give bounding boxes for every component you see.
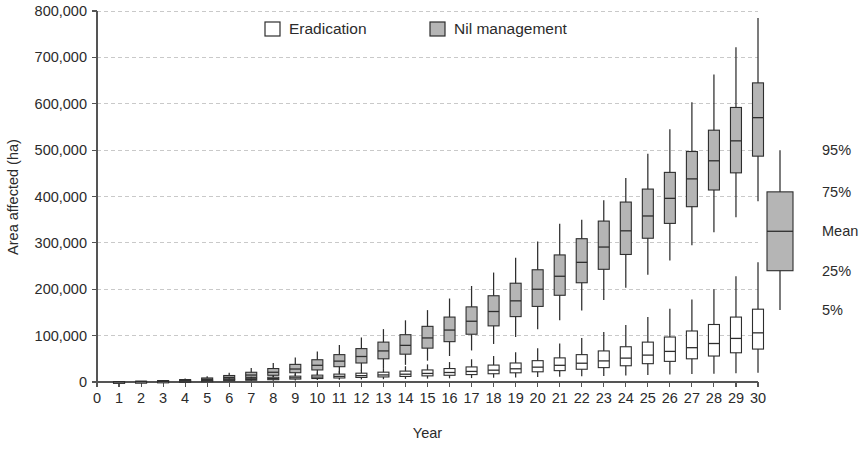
box-rect — [466, 367, 477, 375]
box-plot-item — [290, 374, 301, 381]
box-rect — [510, 363, 521, 373]
box-rect — [620, 347, 631, 366]
x-tick-label: 21 — [552, 390, 568, 406]
box-plot-item — [664, 309, 675, 375]
box-rect — [510, 283, 521, 316]
box-plot-item — [532, 241, 543, 329]
y-axis-title: Area affected (ha) — [5, 139, 21, 255]
y-tick-label: 800,000 — [35, 3, 87, 19]
box-plot-item — [400, 366, 411, 379]
y-tick-label: 400,000 — [35, 189, 87, 205]
y-tick-label: 100,000 — [35, 328, 87, 344]
box-plot-item — [114, 382, 125, 384]
box-plot-item — [642, 317, 653, 375]
legend-group: EradicationNil management — [265, 20, 568, 37]
box-rect — [554, 255, 565, 295]
box-plot-item — [444, 299, 455, 357]
box-plot-item — [180, 380, 191, 382]
xtick-labels-group: 0123456789101112131415161718192021222324… — [93, 390, 766, 406]
legend-label-1: Eradication — [289, 20, 367, 37]
gridlines-group — [97, 11, 758, 336]
box-rect — [488, 365, 499, 374]
box-plot-item — [422, 310, 433, 361]
box-rect — [576, 239, 587, 283]
box-plot-item — [598, 200, 609, 300]
box-rect — [730, 107, 741, 172]
box-rect — [730, 317, 741, 353]
key-label-95pct: 95% — [822, 142, 851, 158]
key-label-5pct: 5% — [822, 302, 843, 318]
x-tick-label: 11 — [332, 390, 347, 406]
box-rect — [686, 331, 697, 359]
box-plot-item — [510, 352, 521, 377]
x-tick-label: 10 — [309, 390, 325, 406]
y-tick-label: 0 — [79, 374, 87, 390]
x-tick-label: 15 — [419, 390, 435, 406]
x-tick-label: 6 — [225, 390, 233, 406]
x-tick-label: 4 — [181, 390, 189, 406]
key-label-mean: Mean — [822, 223, 858, 239]
box-plot-item — [510, 258, 521, 337]
box-plot-item — [532, 348, 543, 377]
x-tick-label: 7 — [247, 390, 255, 406]
box-plot-item — [158, 381, 169, 383]
x-tick-label: 5 — [203, 390, 211, 406]
box-rect — [532, 361, 543, 372]
box-plot-item — [686, 102, 697, 245]
box-plot-item — [753, 18, 764, 201]
box-plot-item — [642, 154, 653, 275]
x-tick-label: 20 — [530, 390, 546, 406]
box-plot-item — [488, 356, 499, 378]
chart-svg: 800,000700,000600,000500,000400,000300,0… — [0, 0, 864, 451]
box-plot-item — [356, 337, 367, 370]
box-plot-item — [576, 220, 587, 311]
y-tick-label: 200,000 — [35, 281, 87, 297]
box-plot-chart: 800,000700,000600,000500,000400,000300,0… — [0, 0, 864, 451]
box-plot-item — [620, 178, 631, 288]
x-tick-label: 3 — [159, 390, 167, 406]
x-tick-label: 9 — [291, 390, 299, 406]
x-tick-label: 16 — [441, 390, 457, 406]
box-plot-item — [708, 75, 719, 233]
ytick-labels-group: 800,000700,000600,000500,000400,000300,0… — [35, 3, 87, 390]
box-plot-item — [686, 299, 697, 374]
x-tick-label: 29 — [728, 390, 744, 406]
key-label-25pct: 25% — [822, 263, 851, 279]
x-tick-label: 8 — [269, 390, 277, 406]
box-rect — [598, 351, 609, 368]
box-plot-item — [753, 262, 764, 372]
box-rect — [753, 83, 764, 156]
box-plot-item — [730, 47, 741, 217]
box-plot-item — [576, 338, 587, 376]
x-axis-title: Year — [413, 425, 442, 441]
box-rect — [753, 309, 764, 349]
x-tick-label: 0 — [93, 390, 101, 406]
box-plot-item — [708, 289, 719, 373]
x-tick-label: 25 — [640, 390, 656, 406]
box-plot-item — [620, 325, 631, 376]
x-tick-label: 30 — [750, 390, 766, 406]
key-label-75pct: 75% — [822, 184, 851, 200]
box-plot-item — [334, 345, 345, 374]
box-rect — [422, 326, 433, 348]
x-tick-label: 17 — [463, 390, 479, 406]
x-tick-label: 13 — [375, 390, 391, 406]
x-tick-label: 2 — [137, 390, 145, 406]
box-plot-item — [466, 359, 477, 378]
box-rect — [488, 296, 499, 326]
box-plot-item — [730, 276, 741, 373]
box-plot-item — [664, 129, 675, 260]
key-group: 95%75%Mean25%5% — [767, 142, 858, 318]
box-plot-item — [334, 371, 345, 380]
boxes-group — [114, 18, 764, 383]
box-rect — [532, 270, 543, 307]
y-tick-label: 300,000 — [35, 235, 87, 251]
box-rect — [664, 337, 675, 361]
legend-swatch-2 — [430, 22, 445, 36]
x-tick-label: 24 — [618, 390, 634, 406]
box-plot-item — [444, 362, 455, 378]
box-rect — [708, 324, 719, 356]
x-tick-label: 28 — [706, 390, 722, 406]
box-plot-item — [356, 370, 367, 380]
box-plot-item — [312, 351, 323, 375]
